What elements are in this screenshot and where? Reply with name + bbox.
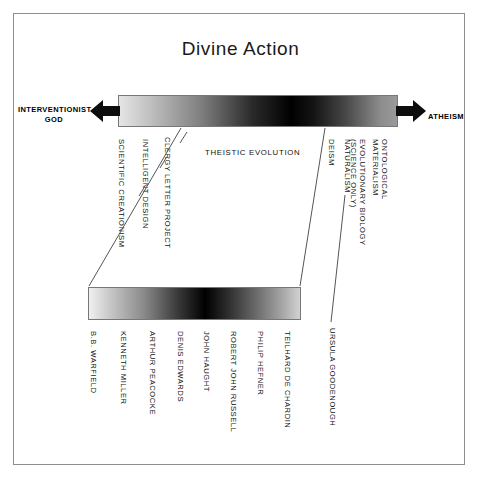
position-label-evolutionary-biology: EVOLUTIONARY BIOLOGY(SCIENCE ONLY) xyxy=(349,139,366,246)
interventionist-god-line1: INTERVENTIONIST xyxy=(18,105,90,115)
thinker-label-john-haught: JOHN HAUGHT xyxy=(202,331,211,392)
arrow-right-icon xyxy=(396,98,426,124)
thinker-label-ursula-goodenough: URSULA GOODENOUGH xyxy=(328,328,337,426)
diagram-frame xyxy=(13,13,465,465)
position-label-evolutionary-biology-line: (SCIENCE ONLY) xyxy=(349,139,358,246)
position-label-clergy-letter-project: CLERGY LETTER PROJECT xyxy=(163,137,172,248)
theistic-evolution-spectrum-bar xyxy=(88,287,301,320)
thinker-label-kenneth-miller: KENNETH MILLER xyxy=(119,331,128,405)
position-label-ontological-materialism: ONTOLOGICALMATERIALISM xyxy=(371,139,388,200)
position-label-ontological-materialism-line: ONTOLOGICAL xyxy=(379,139,388,200)
position-label-evolutionary-biology-line: EVOLUTIONARY BIOLOGY xyxy=(357,139,366,246)
thinker-label-arthur-peacocke: ARTHUR PEACOCKE xyxy=(148,331,157,415)
interventionist-god-label: INTERVENTIONIST GOD xyxy=(18,105,90,125)
diagram-canvas: Divine Action INTERVENTIONIST GOD ATHEIS… xyxy=(0,0,481,483)
position-label-deism: DEISM xyxy=(327,139,336,166)
position-label-scientific-creationism: SCIENTIFIC CREATIONISM xyxy=(117,139,126,248)
thinker-label-denis-edwards: DENIS EDWARDS xyxy=(176,331,185,402)
page-title: Divine Action xyxy=(0,38,481,60)
divine-action-spectrum-bar xyxy=(118,95,398,127)
theistic-evolution-label: THEISTIC EVOLUTION xyxy=(205,148,300,157)
interventionist-god-line2: GOD xyxy=(18,115,90,125)
atheism-label: ATHEISM xyxy=(428,112,480,122)
thinker-label-bb-warfield: B.B. WARFIELD xyxy=(89,331,98,394)
thinker-label-robert-john-russell: ROBERT JOHN RUSSELL xyxy=(229,331,238,432)
thinker-label-philip-hefner: PHILIP HEFNER xyxy=(256,331,265,395)
arrow-left-icon xyxy=(90,98,120,124)
position-label-ontological-materialism-line: MATERIALISM xyxy=(371,139,380,200)
thinker-label-teilhard-de-chardin: TEILHARD DE CHARDIN xyxy=(283,331,292,428)
position-label-intelligent-design: INTELLIGENT DESIGN xyxy=(141,139,150,229)
